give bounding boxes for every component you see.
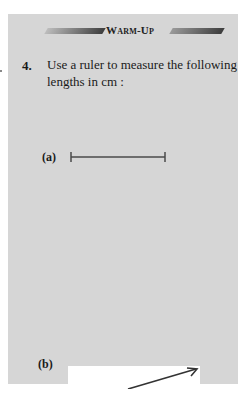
banner-bar-right xyxy=(169,28,224,34)
arrow-segment-b xyxy=(68,359,208,389)
banner-bar-left xyxy=(44,28,105,34)
section-banner: Warm-Up xyxy=(46,24,226,38)
question-number: 4. xyxy=(22,58,32,74)
question-text: Use a ruler to measure the following len… xyxy=(47,56,237,90)
margin-mark xyxy=(0,70,2,72)
part-a-label: (a) xyxy=(42,150,56,165)
line-segment-a xyxy=(70,151,166,163)
part-b-label: (b) xyxy=(38,357,53,372)
arrow-b-line xyxy=(128,369,196,389)
banner-title: Warm-Up xyxy=(106,24,154,36)
warm-up-panel: Warm-Up 4. Use a ruler to measure the fo… xyxy=(8,14,238,384)
